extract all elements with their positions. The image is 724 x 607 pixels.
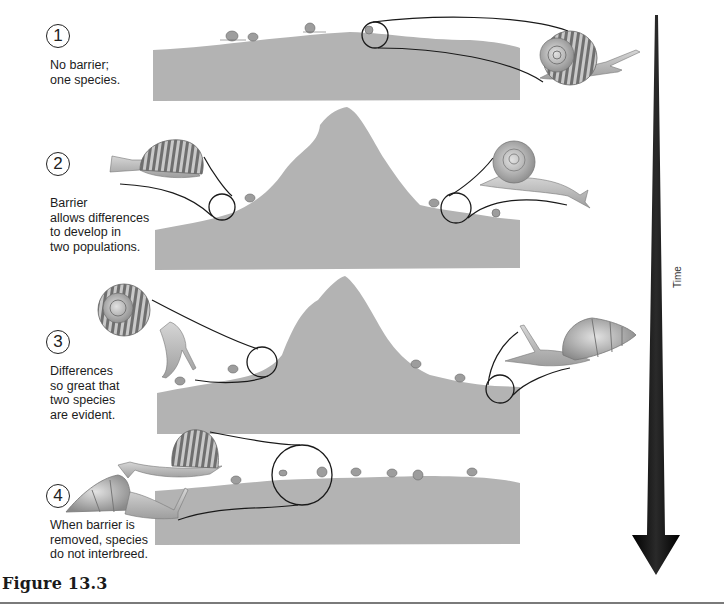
step-number-1: 1 — [46, 24, 70, 48]
allopatric-speciation-figure: 1 No barrier; one species. 2 Barrier all… — [0, 0, 724, 607]
ground-panel-1 — [153, 32, 520, 101]
ground-panel-2-mountain — [155, 107, 520, 270]
step-number-2: 2 — [46, 152, 70, 176]
panel-2 — [110, 107, 590, 270]
ground-panel-4 — [155, 476, 520, 545]
panel-1 — [153, 17, 640, 101]
step-number-4: 4 — [46, 484, 70, 508]
illustration — [0, 0, 724, 607]
step-number-3: 3 — [46, 330, 70, 354]
time-arrow — [632, 15, 680, 575]
panel-3 — [98, 276, 636, 434]
snail-species-a — [118, 430, 222, 478]
caption-divider — [0, 602, 724, 604]
snail-species-ancestral — [540, 31, 640, 85]
snail-population-left — [110, 140, 203, 178]
step-description-3: Differences so great that two species ar… — [50, 364, 120, 422]
step-description-1: No barrier; one species. — [50, 58, 120, 87]
time-axis-label: Time — [672, 266, 683, 288]
figure-caption: Figure 13.3 — [2, 574, 108, 593]
snail-species-b — [505, 318, 636, 366]
step-description-4: When barrier is removed, species do not … — [50, 518, 148, 562]
step-description-2: Barrier allows differences to develop in… — [50, 196, 149, 254]
snail-population-right — [480, 141, 590, 208]
ground-panel-3-mountain — [157, 276, 520, 434]
